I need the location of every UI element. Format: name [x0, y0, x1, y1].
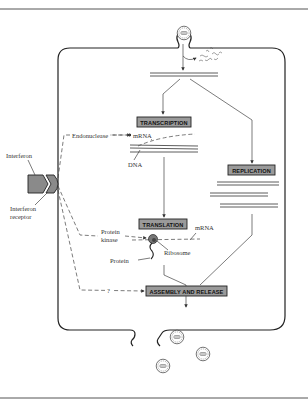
mrna-strand-bottom: [132, 239, 200, 240]
entering-virus-icon: [177, 26, 191, 40]
interferon-diagram: TRANSCRIPTION REPLICATION TRANSLATION: [0, 0, 308, 400]
svg-text:kinase: kinase: [101, 236, 118, 243]
unknown-mechanism-label: ?: [107, 287, 110, 294]
viral-genome: [150, 73, 218, 76]
transcription-box: TRANSCRIPTION: [137, 117, 191, 127]
interferon-receptor-icon: [28, 175, 58, 193]
released-virus-icon: [196, 347, 210, 361]
endonuclease-label-visible: Endonuclease: [72, 132, 108, 139]
protein-kinase-signal: [58, 186, 98, 236]
released-virus-icon: [156, 359, 170, 373]
uncoating-arrow: [183, 56, 196, 60]
endonuclease-signal: [58, 135, 132, 178]
released-virus-icon: [170, 330, 184, 344]
to-transcription-arrow: [163, 79, 180, 114]
protein-label: Protein: [110, 257, 130, 264]
translation-to-assembly-line: [164, 265, 186, 285]
capsid-fragments-icon: [199, 48, 222, 61]
replication-label: REPLICATION: [232, 168, 271, 174]
translation-box: TRANSLATION: [139, 219, 187, 229]
protein-chain: [150, 243, 153, 259]
mrna-bottom-label: mRNA: [195, 224, 214, 231]
dna-label: DNA: [128, 161, 142, 168]
transcription-label: TRANSCRIPTION: [140, 120, 187, 126]
assembly-box: ASSEMBLY AND RELEASE: [146, 286, 227, 296]
receptor-label: Interferon: [10, 205, 37, 212]
replication-box: REPLICATION: [228, 165, 275, 175]
protein-kinase-label: Protein: [101, 228, 121, 235]
ribosome-label: Ribosome: [164, 249, 190, 256]
replicated-genomes: [210, 182, 279, 207]
mrna-top-label: mRNA: [133, 132, 152, 139]
to-replication-arrow: [190, 79, 252, 163]
ribosome-icon: [149, 235, 158, 244]
interferon-label: Interferon: [6, 152, 33, 159]
assembly-label: ASSEMBLY AND RELEASE: [150, 289, 224, 295]
svg-text:receptor: receptor: [10, 213, 32, 220]
cell-membrane: [58, 48, 285, 346]
translation-label: TRANSLATION: [143, 222, 184, 228]
